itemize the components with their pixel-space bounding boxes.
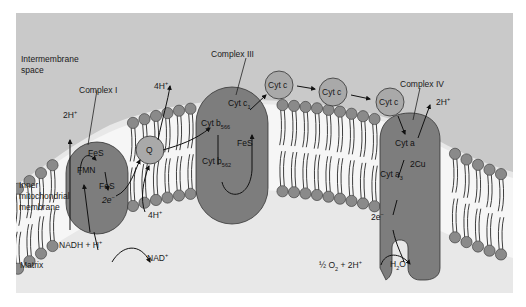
membrane-label: membrane: [19, 203, 60, 212]
cyt-a-label: Cyt a: [395, 139, 415, 148]
mitochondrial-label: mitochondrial: [19, 192, 70, 201]
complex-iv-proton-label: 2H+: [436, 97, 450, 106]
complex-iv-electrons-label: 2e−: [371, 212, 384, 221]
inner-label: Inner: [19, 181, 38, 190]
complex-i-proton-label: 2H+: [63, 110, 77, 119]
intermembrane-label: Intermembrane: [21, 55, 79, 64]
copper-label: 2Cu: [410, 160, 426, 169]
fes-1-label: FeS: [88, 149, 104, 158]
complex-i-label: Complex I: [79, 86, 117, 95]
oxygen-label: ½ O2 + 2H+: [319, 260, 362, 272]
q-label: Q: [146, 146, 153, 155]
space-label: space: [21, 66, 44, 75]
complex-i-electrons-label: 2e−: [102, 195, 115, 204]
cyt-c-2-label: Cyt c: [322, 88, 341, 97]
fes-2-label: FeS: [99, 182, 115, 191]
fmn-label: FMN: [77, 166, 95, 175]
nadh-label: NADH + H+: [59, 240, 102, 249]
complex-iv-label: Complex IV: [400, 80, 444, 89]
complex-iii-label: Complex III: [211, 50, 254, 59]
matrix-label: Matrix: [20, 261, 43, 270]
water-label: H2O: [390, 260, 406, 271]
cyt-a3-label: Cyt a3: [380, 170, 403, 181]
q-proton-in-label: 4H+: [148, 210, 162, 219]
cyt-c-1-label: Cyt c: [268, 81, 287, 90]
cyt-b562-label: Cyt b562: [202, 157, 231, 168]
q-proton-out-label: 4H+: [154, 81, 168, 90]
nad-label: NAD+: [147, 253, 168, 262]
cyt-c1-label: Cyt c1: [228, 99, 250, 110]
complex-iii-fes-label: FeS: [237, 139, 253, 148]
cyt-b566-label: Cyt b566: [201, 119, 230, 130]
cyt-c-3-label: Cyt c: [379, 98, 398, 107]
etc-diagram: Intermembrane space Complex I 2H+ 4H+ Co…: [0, 0, 526, 307]
